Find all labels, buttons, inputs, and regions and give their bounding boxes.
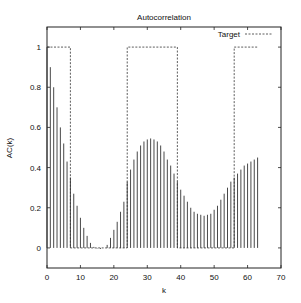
x-tick-label: 40 [176,273,185,282]
x-tick-label: 30 [143,273,152,282]
x-tick-label: 70 [277,273,286,282]
x-tick-label: 0 [45,273,50,282]
y-tick-label: 0.6 [30,123,42,132]
x-axis-label: k [162,286,167,295]
chart-title: Autocorrelation [137,13,191,22]
y-tick-label: 0.8 [30,83,42,92]
y-axis-label: AC(k) [5,137,14,158]
y-tick-label: 0 [37,244,42,253]
y-tick-label: 0.4 [30,164,42,173]
ac-impulses [47,47,258,249]
legend: Target [218,30,272,39]
autocorrelation-chart: 01020304050607000.20.40.60.81 Target k A… [0,0,301,303]
x-tick-label: 10 [76,273,85,282]
y-tick-label: 0.2 [30,204,42,213]
x-tick-label: 60 [243,273,252,282]
y-tick-label: 1 [37,43,42,52]
target-line [47,47,258,248]
x-tick-label: 50 [210,273,219,282]
legend-label-target: Target [218,30,241,39]
x-tick-label: 20 [109,273,118,282]
